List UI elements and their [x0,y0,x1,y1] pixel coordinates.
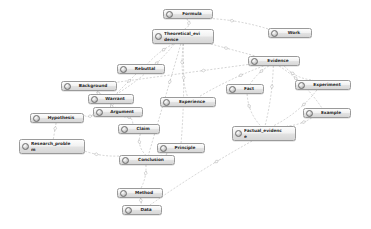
node-label: Work [280,30,308,35]
node-circle-icon [64,83,71,90]
edge-research_problem-to-conclusion [85,151,119,156]
node-label: Background [73,83,113,88]
edge-marker-diamond [238,73,243,77]
edge-theoretical-to-principle [181,44,184,143]
edge-evidence-to-fact [250,66,269,84]
node-example[interactable]: Example [303,108,351,118]
edge-marker-diamond [144,171,148,176]
node-label: Evidence [260,58,296,63]
node-circle-icon [160,145,167,152]
edge-marker-diamond [230,19,235,23]
node-rebuttal[interactable]: Rebuttal [117,64,165,74]
node-circle-icon [22,143,29,150]
node-circle-icon [91,96,98,103]
node-label: Claim [130,126,156,131]
edge-marker-diamond [94,153,99,156]
node-label: Warrant [100,96,130,101]
node-label: Research_proble m [31,141,81,151]
edge-marker-diamond [181,60,184,65]
node-label: Method [129,190,159,195]
node-circle-icon [120,66,127,73]
node-argument[interactable]: Argument [93,107,143,117]
node-circle-icon [155,33,162,40]
node-conclusion[interactable]: Conclusion [119,155,175,165]
node-warrant[interactable]: Warrant [88,94,134,104]
node-circle-icon [251,58,258,65]
edge-marker-diamond [201,69,206,72]
node-circle-icon [125,207,132,214]
node-circle-icon [166,11,173,18]
node-factual_evidence[interactable]: Factual_evidenc e [232,126,296,141]
node-label: Principle [169,145,201,150]
edge-marker-diamond [137,139,141,144]
node-experience[interactable]: Experience [160,97,216,107]
edge-rebuttal-to-warrant [116,74,136,94]
node-label: Experience [172,99,212,104]
node-circle-icon [121,126,128,133]
node-circle-icon [33,115,40,122]
edge-marker-diamond [139,198,142,203]
node-experiment[interactable]: Experiment [295,80,351,90]
edge-marker-diamond [301,120,306,124]
node-label: Argument [105,109,139,114]
node-data[interactable]: Data [122,205,162,215]
node-label: Data [134,207,158,212]
node-work[interactable]: Work [268,28,312,38]
node-circle-icon [271,30,278,37]
node-label: Experiment [307,82,347,87]
node-background[interactable]: Background [61,81,117,91]
node-label: Formula [175,11,209,16]
edge-marker-diamond [168,79,172,84]
edge-theoretical-to-evidence [211,44,256,56]
edge-marker-diamond [182,75,185,79]
edge-conclusion-to-method [141,165,146,188]
node-fact[interactable]: Fact [226,84,264,94]
node-hypothesis[interactable]: Hypothesis [30,113,84,123]
node-theoretical[interactable]: Theoretical_evi dence [152,29,214,44]
node-formula[interactable]: Formula [163,9,213,19]
node-circle-icon [229,86,236,93]
edge-evidence-to-factual_evidence [265,66,273,126]
edge-marker-diamond [53,126,57,131]
node-circle-icon [122,157,129,164]
node-evidence[interactable]: Evidence [248,56,300,66]
node-circle-icon [120,190,127,197]
edge-claim-to-conclusion [139,134,145,155]
edge-marker-diamond [187,21,191,26]
edge-marker-diamond [214,159,219,164]
node-principle[interactable]: Principle [157,143,205,153]
node-label: Rebuttal [129,66,161,71]
edge-fact-to-factual_evidence [247,94,261,126]
node-label: Fact [238,86,260,91]
edge-theoretical-to-rebuttal [147,44,173,64]
node-claim[interactable]: Claim [118,124,160,134]
edge-marker-diamond [270,84,273,89]
edge-marker-diamond [259,69,264,74]
node-method[interactable]: Method [117,188,163,198]
edge-marker-diamond [88,115,93,118]
edge-theoretical-to-experience [182,44,188,97]
diagram-canvas[interactable]: FormulaTheoretical_evi denceWorkEvidence… [0,0,371,229]
edge-marker-diamond [127,78,132,83]
node-circle-icon [235,130,242,137]
node-circle-icon [306,110,313,117]
node-label: Example [315,110,347,115]
node-circle-icon [163,99,170,106]
node-circle-icon [96,109,103,116]
edge-formula-to-work [213,19,268,29]
node-label: Factual_evidenc e [244,128,292,138]
edge-marker-diamond [224,46,229,50]
edge-example-to-factual_evidence [287,118,312,126]
node-label: Conclusion [131,157,171,162]
node-research_problem[interactable]: Research_proble m [19,139,85,154]
node-label: Hypothesis [42,115,80,120]
edge-evidence-to-experiment [284,66,313,80]
edge-marker-diamond [247,103,251,108]
edge-marker-diamond [161,47,166,52]
node-circle-icon [298,82,305,89]
node-label: Theoretical_evi dence [164,31,210,41]
